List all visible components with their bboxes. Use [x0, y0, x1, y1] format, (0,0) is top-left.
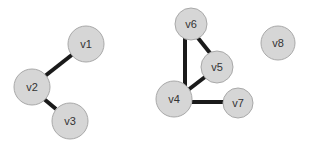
edge-v6-v5	[198, 38, 210, 53]
node-label: v6	[185, 18, 197, 30]
node-v1: v1	[68, 26, 104, 62]
node-label: v7	[232, 97, 244, 109]
node-v6: v6	[175, 8, 207, 40]
node-label: v8	[272, 37, 284, 49]
node-label: v3	[64, 115, 76, 127]
node-v4: v4	[156, 81, 192, 117]
edge-v2-v3	[44, 99, 56, 109]
edge-v1-v2	[45, 54, 73, 76]
node-label: v2	[26, 81, 38, 93]
node-label: v5	[211, 61, 223, 73]
node-v3: v3	[52, 103, 88, 139]
node-v2: v2	[14, 69, 50, 105]
node-label: v1	[80, 38, 92, 50]
node-v7: v7	[223, 88, 253, 118]
nodes-layer: v1 v2 v3 v6 v5 v4 v7 v8	[14, 8, 295, 139]
node-v8: v8	[261, 26, 295, 60]
graph-diagram: v1 v2 v3 v6 v5 v4 v7 v8	[0, 0, 312, 147]
edge-v5-v4	[188, 77, 205, 90]
node-label: v4	[168, 93, 180, 105]
node-v5: v5	[201, 51, 233, 83]
